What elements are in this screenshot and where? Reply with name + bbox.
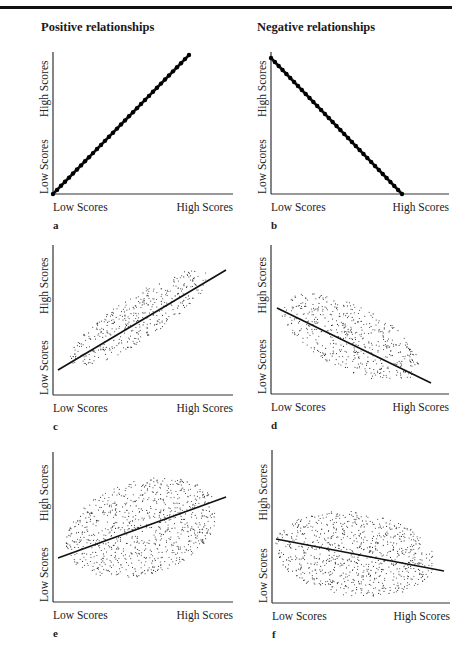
panel-a: Low ScoresHigh ScoresLow ScoresHigh Scor… bbox=[38, 52, 234, 231]
y-label-high: High Scores bbox=[38, 464, 51, 521]
panel-c: Low ScoresHigh ScoresLow ScoresHigh Scor… bbox=[38, 245, 234, 432]
y-label-low: Low Scores bbox=[38, 547, 50, 602]
y-label-low: Low Scores bbox=[257, 548, 269, 603]
x-label-high: High Scores bbox=[176, 201, 233, 214]
x-label-low: Low Scores bbox=[271, 201, 326, 213]
y-label-low: Low Scores bbox=[256, 339, 268, 394]
x-label-low: Low Scores bbox=[53, 402, 108, 414]
panel-letter: a bbox=[53, 219, 59, 231]
y-label-low: Low Scores bbox=[38, 139, 50, 194]
x-label-high: High Scores bbox=[393, 610, 450, 623]
panel-letter: e bbox=[53, 627, 58, 639]
x-label-low: Low Scores bbox=[53, 609, 108, 621]
panel-letter: c bbox=[53, 420, 58, 432]
regression-line bbox=[277, 308, 431, 383]
scatter-points bbox=[282, 293, 419, 379]
x-label-high: High Scores bbox=[392, 201, 449, 214]
y-label-low: Low Scores bbox=[38, 340, 50, 395]
panel-f: Low ScoresHigh ScoresLow ScoresHigh Scor… bbox=[257, 450, 451, 640]
x-label-high: High Scores bbox=[392, 401, 449, 414]
y-label-high: High Scores bbox=[38, 257, 51, 314]
scatterplot-grid: Low ScoresHigh ScoresLow ScoresHigh Scor… bbox=[0, 0, 470, 661]
regression-line bbox=[58, 497, 226, 558]
x-label-low: Low Scores bbox=[53, 201, 108, 213]
x-label-low: Low Scores bbox=[272, 610, 327, 622]
y-label-high: High Scores bbox=[256, 60, 269, 117]
x-label-high: High Scores bbox=[176, 609, 233, 622]
panel-letter: b bbox=[271, 219, 277, 231]
panel-d: Low ScoresHigh ScoresLow ScoresHigh Scor… bbox=[256, 245, 450, 431]
x-label-low: Low Scores bbox=[271, 401, 326, 413]
y-label-high: High Scores bbox=[256, 256, 269, 313]
y-label-high: High Scores bbox=[38, 60, 51, 117]
panel-letter: d bbox=[271, 419, 277, 431]
x-label-high: High Scores bbox=[176, 402, 233, 415]
panel-e: Low ScoresHigh ScoresLow ScoresHigh Scor… bbox=[38, 452, 234, 639]
panel-b: Low ScoresHigh ScoresLow ScoresHigh Scor… bbox=[256, 52, 450, 231]
regression-line bbox=[58, 270, 226, 370]
y-label-high: High Scores bbox=[257, 463, 270, 520]
y-label-low: Low Scores bbox=[256, 139, 268, 194]
panel-letter: f bbox=[272, 628, 276, 640]
